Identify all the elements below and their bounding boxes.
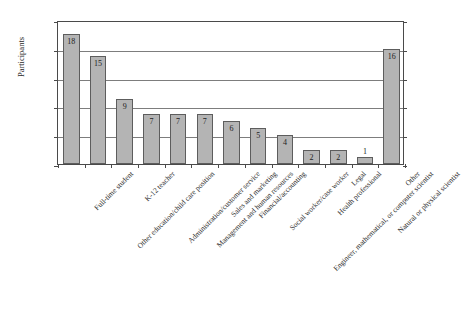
x-tick-mark [405,164,406,168]
y-tick-mark-right [403,137,407,138]
bar[interactable]: 7 [197,114,214,164]
bar-value-label: 18 [64,37,79,46]
bar[interactable]: 2 [330,150,347,164]
bar-value-label: 7 [144,117,159,126]
bar-slot[interactable]: 2 [330,20,347,164]
bar[interactable]: 7 [143,114,160,164]
bar-value-label: 2 [331,153,346,162]
y-tick-mark [54,80,58,81]
bar-slot[interactable]: 16 [383,20,400,164]
y-tick-mark-right [403,22,407,23]
bar-slot[interactable]: 15 [90,20,107,164]
x-tick-mark [85,164,86,168]
x-axis-label: Other education/child care position [136,170,216,250]
bar[interactable]: 7 [170,114,187,164]
x-tick-mark [58,164,59,168]
bar-value-label: 9 [117,102,132,111]
y-tick-mark [54,22,58,23]
bar-value-label: 7 [171,117,186,126]
x-axis-label: Full-time student [93,170,135,212]
bar[interactable]: 6 [223,121,240,164]
x-tick-mark [325,164,326,168]
bar[interactable]: 2 [303,150,320,164]
bar[interactable]: 5 [250,128,267,164]
bar-slot[interactable]: 4 [277,20,294,164]
bar-value-label: 6 [224,124,239,133]
x-tick-mark [272,164,273,168]
y-tick-mark-right [403,108,407,109]
x-tick-mark [352,164,353,168]
chart-title [0,0,416,3]
x-tick-mark [378,164,379,168]
y-tick-mark [54,51,58,52]
bar-slot[interactable]: 18 [63,20,80,164]
bar-value-label: 4 [278,138,293,147]
bar-value-label: 1 [358,147,373,156]
bar[interactable]: 1 [357,157,374,164]
x-tick-mark [245,164,246,168]
plot-area: 0%4%8%12%16%20% 1815977765422116 [57,21,404,165]
x-axis-label: K-12 teacher [143,170,176,203]
x-axis-label: Engineer, mathematical, or computer scie… [332,170,435,273]
bar-value-label: 2 [304,153,319,162]
bar-slot[interactable]: 2 [303,20,320,164]
bar-slot[interactable]: 7 [143,20,160,164]
bar-slot[interactable]: 9 [116,20,133,164]
bar-slot[interactable]: 6 [223,20,240,164]
bar-value-label: 7 [198,117,213,126]
bar-value-label: 5 [251,131,266,140]
y-tick-mark [54,108,58,109]
bar-value-label: 15 [91,59,106,68]
x-tick-mark [191,164,192,168]
bar[interactable]: 18 [63,34,80,164]
bar[interactable]: 16 [383,49,400,164]
y-tick-mark-right [403,51,407,52]
x-tick-mark [218,164,219,168]
y-axis-title: Participants [16,12,26,102]
bar-slot[interactable]: 7 [170,20,187,164]
x-tick-mark [298,164,299,168]
bar[interactable]: 9 [116,99,133,164]
bar-slot[interactable]: 1 [357,20,374,164]
bar[interactable]: 4 [277,135,294,164]
y-tick-mark [54,137,58,138]
bar-slot[interactable]: 5 [250,20,267,164]
y-tick-mark-right [403,80,407,81]
bar[interactable]: 15 [90,56,107,164]
bar-value-label: 16 [384,52,399,61]
x-tick-mark [111,164,112,168]
bar-slot[interactable]: 7 [197,20,214,164]
x-tick-mark [138,164,139,168]
x-tick-mark [165,164,166,168]
